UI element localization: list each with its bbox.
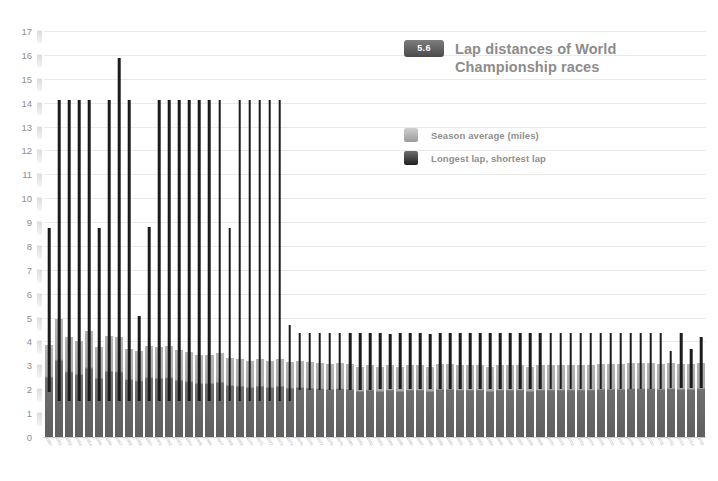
- bar-group[interactable]: 1961: [154, 31, 164, 437]
- y-axis-tick-nub: [37, 174, 42, 187]
- range-line-lap: [238, 100, 241, 401]
- bar-group[interactable]: 1985: [395, 31, 405, 437]
- range-line-lap: [449, 333, 452, 389]
- bar-group[interactable]: 1972: [265, 31, 275, 437]
- bar-group[interactable]: 2012: [666, 31, 676, 437]
- range-line-lap: [188, 100, 191, 401]
- range-line-lap: [639, 333, 642, 389]
- bar-group[interactable]: 1963: [174, 31, 184, 437]
- bar-group[interactable]: 1968: [225, 31, 235, 437]
- y-axis-tick-nub: [37, 365, 42, 378]
- y-axis-tick-label: 4: [27, 336, 32, 347]
- range-line-lap: [148, 227, 151, 401]
- bar-group[interactable]: 1951: [54, 31, 64, 437]
- bar-group[interactable]: 1991: [455, 31, 465, 437]
- bar-group[interactable]: 2005: [596, 31, 606, 437]
- bar-group[interactable]: 1989: [435, 31, 445, 437]
- bar-group[interactable]: 1967: [215, 31, 225, 437]
- bar-group[interactable]: 1981: [355, 31, 365, 437]
- bar-group[interactable]: 2003: [576, 31, 586, 437]
- range-line-lap: [419, 333, 422, 389]
- bar-group[interactable]: 1950: [44, 31, 54, 437]
- range-line-lap: [308, 333, 311, 390]
- legend-swatch-icon-season-average: [404, 128, 418, 142]
- bar-group[interactable]: 1973: [275, 31, 285, 437]
- bar-group[interactable]: 1996: [505, 31, 515, 437]
- bar-group[interactable]: 2007: [616, 31, 626, 437]
- bar-group[interactable]: 1953: [74, 31, 84, 437]
- range-line-lap: [509, 333, 512, 389]
- bar-group[interactable]: 1957: [114, 31, 124, 437]
- bar-group[interactable]: 1990: [445, 31, 455, 437]
- legend: Season average (miles) Longest lap, shor…: [404, 128, 546, 174]
- bar-group[interactable]: 1952: [64, 31, 74, 437]
- bar-group[interactable]: 2001: [556, 31, 566, 437]
- bar-group[interactable]: 1962: [164, 31, 174, 437]
- bar-group[interactable]: 2004: [586, 31, 596, 437]
- page-title: Lap distances of World Championship race…: [455, 40, 691, 76]
- range-line-lap: [680, 333, 683, 388]
- bar-group[interactable]: 1988: [425, 31, 435, 437]
- range-line-lap: [399, 333, 402, 389]
- bar-group[interactable]: 1978: [325, 31, 335, 437]
- range-line-lap: [88, 100, 91, 401]
- bar-group[interactable]: 2010: [646, 31, 656, 437]
- range-line-lap: [178, 100, 181, 401]
- bar-group[interactable]: 1974: [285, 31, 295, 437]
- y-axis-tick-label: 10: [21, 193, 32, 204]
- bar-group[interactable]: 2002: [566, 31, 576, 437]
- bar-group[interactable]: 1959: [134, 31, 144, 437]
- y-axis-tick-nub: [37, 317, 42, 330]
- y-axis-tick-nub: [37, 222, 42, 235]
- bar-group[interactable]: 2006: [606, 31, 616, 437]
- range-line-lap: [469, 333, 472, 389]
- range-line-lap: [349, 333, 352, 390]
- bar-group[interactable]: 2013: [676, 31, 686, 437]
- bar-group[interactable]: 1999: [535, 31, 545, 437]
- bar-group[interactable]: 1998: [525, 31, 535, 437]
- bar-group[interactable]: 1966: [204, 31, 214, 437]
- bar-group[interactable]: 1986: [405, 31, 415, 437]
- range-line-lap: [519, 333, 522, 389]
- bar-group[interactable]: 1979: [335, 31, 345, 437]
- bar-group[interactable]: 1976: [305, 31, 315, 437]
- bar-group[interactable]: 1983: [375, 31, 385, 437]
- range-line-lap: [369, 333, 372, 390]
- bar-group[interactable]: 1955: [94, 31, 104, 437]
- bar-group[interactable]: 1958: [124, 31, 134, 437]
- range-line-lap: [118, 58, 121, 401]
- bar-group[interactable]: 2015: [696, 31, 706, 437]
- bar-group[interactable]: 1965: [194, 31, 204, 437]
- bar-group[interactable]: 2009: [636, 31, 646, 437]
- bar-group[interactable]: 2008: [626, 31, 636, 437]
- bar-group[interactable]: 1984: [385, 31, 395, 437]
- bar-group[interactable]: 1987: [415, 31, 425, 437]
- bar-group[interactable]: 1993: [475, 31, 485, 437]
- bar-group[interactable]: 1997: [515, 31, 525, 437]
- bar-group[interactable]: 2011: [656, 31, 666, 437]
- bar-group[interactable]: 1977: [315, 31, 325, 437]
- range-line-lap: [48, 228, 51, 392]
- bar-group[interactable]: 1964: [184, 31, 194, 437]
- bar-group[interactable]: 1975: [295, 31, 305, 437]
- range-line-lap: [268, 100, 271, 401]
- range-line-lap: [319, 333, 322, 390]
- bar-group[interactable]: 1982: [365, 31, 375, 437]
- bar-group[interactable]: 1992: [465, 31, 475, 437]
- bar-group[interactable]: 1995: [495, 31, 505, 437]
- y-axis-tick-label: 6: [27, 288, 32, 299]
- bar-group[interactable]: 1971: [255, 31, 265, 437]
- range-line-lap: [609, 333, 612, 389]
- bar-group[interactable]: 1960: [144, 31, 154, 437]
- bar-group[interactable]: 2014: [686, 31, 696, 437]
- range-line-lap: [629, 333, 632, 389]
- bar-group[interactable]: 1956: [104, 31, 114, 437]
- bar-group[interactable]: 1954: [84, 31, 94, 437]
- bar-group[interactable]: 1970: [245, 31, 255, 437]
- bar-group[interactable]: 1980: [345, 31, 355, 437]
- range-line-lap: [429, 334, 432, 389]
- range-line-lap: [489, 333, 492, 389]
- bar-group[interactable]: 2000: [546, 31, 556, 437]
- bar-group[interactable]: 1969: [235, 31, 245, 437]
- bar-group[interactable]: 1994: [485, 31, 495, 437]
